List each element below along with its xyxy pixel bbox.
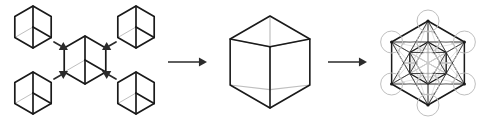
arrow-from-bottom-right-shaft — [109, 75, 116, 79]
cube-top-left-edge-right — [33, 27, 51, 38]
arrow-from-top-left-shaft — [54, 42, 61, 46]
arrow-panel2-to-panel3 — [328, 0, 370, 126]
panel-single-transparent-cube — [210, 0, 330, 126]
arrow-panel1-to-panel2-head — [199, 57, 207, 66]
arrow-from-bottom-right — [102, 71, 116, 79]
cube-bottom-left-edge-right — [33, 93, 51, 104]
metatron-outer-node-0 — [426, 19, 429, 22]
arrow-from-top-left — [54, 42, 68, 50]
arrow-panel1-to-panel2 — [168, 57, 207, 66]
diagram-canvas — [0, 0, 491, 126]
panel-four-cubes-converging — [0, 0, 168, 126]
cube-center-hidden-edge — [64, 60, 85, 72]
metatron-outer-hex-edge-3 — [392, 84, 428, 105]
metatron-outer-node-1 — [463, 40, 466, 43]
panel-metatrons-cube — [370, 0, 491, 126]
cube-bottom-left-hidden-edge — [15, 93, 33, 104]
arrow-from-bottom-left-shaft — [54, 75, 61, 79]
cube-top-right-hidden-edge — [118, 27, 136, 38]
cube-bottom-right-edge-right — [136, 93, 154, 104]
cube-bottom-right-hidden-edge — [118, 93, 136, 104]
cube-large-wireframe-top-edge-left — [230, 39, 270, 47]
metatron-outer-node-4 — [390, 82, 393, 85]
cube-top-right — [118, 6, 154, 48]
metatron-outer-node-5 — [390, 40, 393, 43]
cube-center — [64, 36, 106, 84]
cube-top-right-edge-right — [136, 27, 154, 38]
cube-top-left-hidden-edge — [15, 27, 33, 38]
cube-top-left — [15, 6, 51, 48]
arrow-panel1-to-panel2 — [168, 0, 210, 126]
metatron-outer-node-3 — [426, 103, 429, 106]
arrow-from-top-right — [102, 42, 116, 50]
metatron-outer-hex-edge-2 — [428, 84, 464, 105]
cube-large-wireframe-top-edge-right — [270, 39, 310, 47]
cube-bottom-right — [118, 72, 154, 114]
arrow-from-bottom-left — [54, 71, 68, 79]
cube-large-wireframe — [230, 16, 310, 108]
metatron-outer-hex-edge-0 — [428, 21, 464, 42]
metatron-outer-hex-edge-5 — [392, 21, 428, 42]
metatron-outer-node-2 — [463, 82, 466, 85]
arrow-panel2-to-panel3-head — [359, 57, 367, 66]
arrow-from-top-right-shaft — [109, 42, 116, 46]
arrow-panel2-to-panel3 — [328, 57, 367, 66]
cube-bottom-left — [15, 72, 51, 114]
cube-center-edge-right — [85, 60, 106, 72]
